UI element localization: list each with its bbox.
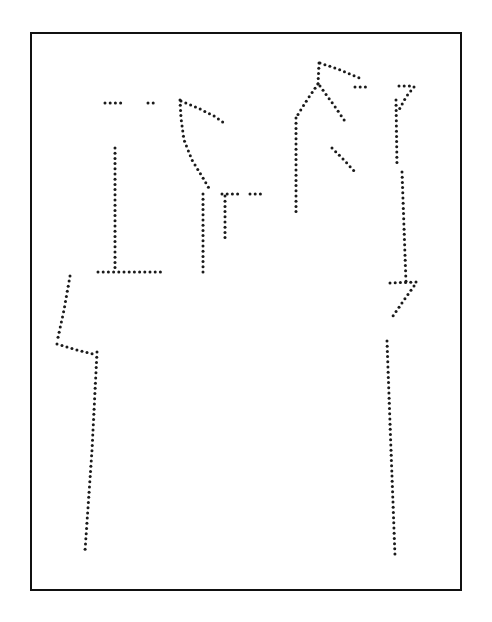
page-root <box>0 0 492 622</box>
figure-border <box>30 32 462 591</box>
